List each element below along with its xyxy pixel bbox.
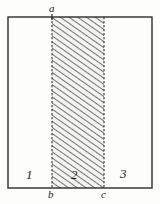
figure-canvas: [0, 0, 160, 204]
label-region-1: 1: [26, 168, 33, 181]
label-point-a: a: [49, 3, 55, 14]
label-region-2: 2: [71, 168, 78, 181]
label-point-c: c: [101, 189, 106, 200]
label-point-b: b: [48, 189, 54, 200]
label-region-3: 3: [120, 167, 127, 180]
hatched-region-2: [52, 17, 104, 188]
geometry-figure: a b c 1 2 3: [0, 0, 160, 204]
